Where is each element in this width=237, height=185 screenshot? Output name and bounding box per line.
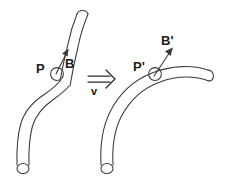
map-arrow-head: [106, 70, 115, 88]
label-vector-B-prime: B': [161, 34, 173, 47]
label-map-v: v: [91, 86, 97, 97]
right-tube-end-cap: [208, 70, 213, 81]
right-tube-group: [101, 47, 214, 173]
label-point-P: P: [36, 62, 45, 75]
left-tube-lower-outer-wall: [17, 81, 60, 165]
diagram-canvas: P B P' B' v: [0, 0, 237, 185]
right-tube-outer-wall: [101, 67, 208, 165]
left-tube-bottom-opening: [17, 164, 29, 174]
vector-B-prime-head: [165, 47, 173, 56]
right-tube-inner-wall: [113, 77, 209, 165]
right-tube-bottom-opening: [101, 164, 113, 174]
tube-deformation-diagram: [0, 0, 237, 185]
left-tube-group: [17, 10, 88, 173]
left-tube-top-cap: [77, 10, 88, 14]
label-vector-B: B: [65, 57, 74, 70]
label-point-P-prime: P': [133, 60, 145, 73]
left-tube-lower-inner-wall: [29, 86, 69, 165]
